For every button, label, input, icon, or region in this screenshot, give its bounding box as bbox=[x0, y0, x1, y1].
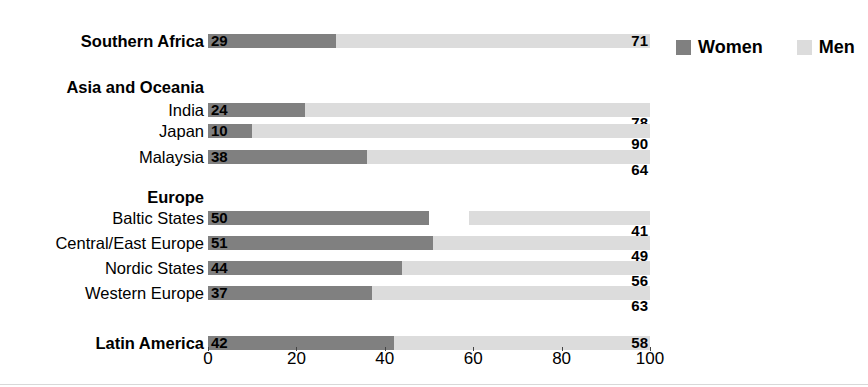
bottom-rule bbox=[0, 384, 868, 385]
value-label-women: 44 bbox=[211, 261, 228, 275]
bar-segment-women bbox=[208, 150, 376, 164]
row-label: Western Europe bbox=[0, 286, 204, 300]
bar-segment-women bbox=[208, 261, 402, 275]
group-heading: Europe bbox=[0, 190, 204, 204]
axis-tick-label: 80 bbox=[552, 350, 571, 368]
value-label-women: 51 bbox=[211, 236, 228, 250]
chart-row: Western Europe3763 bbox=[0, 286, 868, 300]
chart-row: Malaysia3864 bbox=[0, 150, 868, 164]
group-heading: Asia and Oceania bbox=[0, 80, 204, 94]
chart-row: India2478 bbox=[0, 103, 868, 117]
legend-item-women[interactable]: Women bbox=[676, 38, 763, 56]
row-label: Nordic States bbox=[0, 261, 204, 275]
bar-segment-men bbox=[305, 103, 650, 117]
row-label: India bbox=[0, 103, 204, 117]
value-label-women: 10 bbox=[211, 124, 228, 138]
bar-segment-men bbox=[433, 236, 650, 250]
legend-item-men[interactable]: Men bbox=[797, 38, 855, 56]
bar-track bbox=[208, 150, 650, 164]
legend-label: Men bbox=[819, 38, 855, 56]
bar-segment-men bbox=[469, 211, 650, 225]
bar-track bbox=[208, 286, 650, 300]
value-label-men: 90 bbox=[0, 137, 648, 151]
value-label-men: 64 bbox=[0, 163, 648, 177]
bar-track bbox=[208, 236, 650, 250]
row-label: Japan bbox=[0, 124, 204, 138]
bar-track bbox=[208, 124, 650, 138]
axis-tick-label: 40 bbox=[375, 350, 394, 368]
value-label-women: 50 bbox=[211, 211, 228, 225]
legend-label: Women bbox=[698, 38, 763, 56]
chart-row: Central/East Europe5149 bbox=[0, 236, 868, 250]
chart-row: Baltic States5041 bbox=[0, 211, 868, 225]
bar-segment-women bbox=[208, 236, 433, 250]
bar-segment-men bbox=[252, 124, 650, 138]
legend-swatch-men-icon bbox=[797, 40, 812, 55]
x-axis: 020406080100 bbox=[208, 347, 650, 379]
bar-segment-men bbox=[372, 286, 650, 300]
value-label-women: 37 bbox=[211, 286, 228, 300]
row-label: Baltic States bbox=[0, 211, 204, 225]
bar-track bbox=[208, 211, 650, 225]
chart-row: Nordic States4456 bbox=[0, 261, 868, 275]
chart-legend: WomenMen bbox=[676, 38, 855, 56]
bar-segment-women bbox=[208, 211, 429, 225]
row-label: Malaysia bbox=[0, 150, 204, 164]
value-label-women: 24 bbox=[211, 103, 228, 117]
row-label: Central/East Europe bbox=[0, 236, 204, 250]
bar-segment-men bbox=[402, 261, 650, 275]
axis-tick-label: 60 bbox=[464, 350, 483, 368]
bar-segment-women bbox=[208, 286, 372, 300]
axis-tick-label: 20 bbox=[287, 350, 306, 368]
value-label-men: 71 bbox=[0, 34, 648, 48]
legend-swatch-women-icon bbox=[676, 40, 691, 55]
axis-tick-label: 0 bbox=[203, 350, 212, 368]
chart-plot-area: Southern Africa2971India2478Japan1090Mal… bbox=[0, 0, 868, 387]
chart-row: Japan1090 bbox=[0, 124, 868, 138]
bar-segment-men bbox=[367, 150, 650, 164]
value-label-women: 38 bbox=[211, 150, 228, 164]
bar-track bbox=[208, 103, 650, 117]
value-label-men: 63 bbox=[0, 299, 648, 313]
bar-track bbox=[208, 261, 650, 275]
axis-tick-label: 100 bbox=[636, 350, 664, 368]
